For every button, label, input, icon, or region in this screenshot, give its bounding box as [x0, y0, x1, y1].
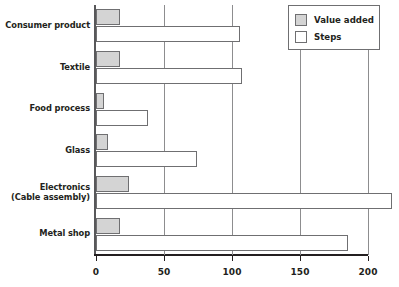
- bar-steps-1: [96, 68, 242, 84]
- legend-item-steps[interactable]: Steps: [295, 28, 379, 45]
- category-label-5: Metal shop: [0, 228, 90, 238]
- bar-value-added-5: [96, 218, 120, 234]
- category-label-line: (Cable assembly): [0, 192, 90, 202]
- legend-item-value-added[interactable]: Value added: [295, 11, 379, 28]
- bar-steps-2: [96, 110, 148, 126]
- x-tick-label: 50: [158, 267, 171, 277]
- bar-steps-3: [96, 151, 197, 167]
- x-tick-label: 100: [223, 267, 242, 277]
- category-label-line: Consumer product: [0, 20, 90, 30]
- legend-label: Steps: [314, 32, 341, 42]
- tick-mark-100: [232, 256, 233, 261]
- tick-mark-200: [368, 256, 369, 261]
- category-label-1: Textile: [0, 62, 90, 72]
- tick-mark-150: [300, 256, 301, 261]
- bar-steps-0: [96, 26, 240, 42]
- legend-swatch-steps-icon: [295, 31, 307, 43]
- legend-label: Value added: [314, 15, 374, 25]
- bar-chart: Consumer productTextileFood processGlass…: [0, 0, 399, 287]
- category-label-line: Electronics: [0, 182, 90, 192]
- category-label-3: Glass: [0, 145, 90, 155]
- category-label-line: Textile: [0, 62, 90, 72]
- tick-mark-0: [96, 256, 97, 261]
- category-label-2: Food process: [0, 103, 90, 113]
- x-tick-label: 200: [359, 267, 378, 277]
- gridline-50: [164, 5, 165, 255]
- category-axis-labels: Consumer productTextileFood processGlass…: [0, 5, 90, 255]
- category-label-0: Consumer product: [0, 20, 90, 30]
- category-label-4: Electronics(Cable assembly): [0, 182, 90, 202]
- bar-steps-5: [96, 235, 348, 251]
- category-label-line: Food process: [0, 103, 90, 113]
- bar-steps-4: [96, 193, 392, 209]
- bar-value-added-0: [96, 9, 120, 25]
- category-label-line: Glass: [0, 145, 90, 155]
- bar-value-added-3: [96, 134, 108, 150]
- bar-value-added-4: [96, 176, 129, 192]
- legend: Value addedSteps: [288, 5, 380, 50]
- category-label-line: Metal shop: [0, 228, 90, 238]
- bar-value-added-1: [96, 51, 120, 67]
- x-axis-line: [94, 254, 368, 256]
- legend-swatch-value-added-icon: [295, 14, 307, 26]
- tick-mark-50: [164, 256, 165, 261]
- x-tick-label: 150: [291, 267, 310, 277]
- gridline-100: [232, 5, 233, 255]
- bar-value-added-2: [96, 93, 104, 109]
- x-tick-label: 0: [93, 267, 99, 277]
